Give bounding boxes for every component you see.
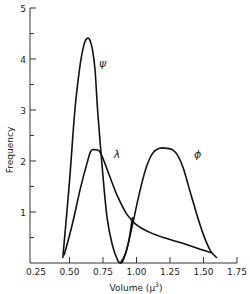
- y-tick-label: 2: [20, 157, 26, 167]
- curve-label-psi: ψ: [99, 57, 107, 70]
- x-tick-label: 1.75: [227, 267, 247, 277]
- x-tick-label: 1.00: [126, 267, 146, 277]
- axes: 123450.250.500.751.001.251.501.75: [20, 4, 247, 278]
- frequency-volume-chart: 123450.250.500.751.001.251.501.75 ψλϕ Fr…: [0, 0, 250, 294]
- y-axis-title: Frequency: [5, 126, 15, 173]
- curve-label-lambda: λ: [113, 148, 121, 161]
- y-tick-label: 1: [20, 208, 26, 218]
- y-tick-label: 5: [20, 4, 26, 14]
- curve-label-phi: ϕ: [194, 148, 201, 161]
- x-axis-title: Volume (μ3): [110, 281, 163, 293]
- x-tick-label: 1.50: [193, 267, 213, 277]
- x-tick-label: 0.25: [26, 267, 46, 277]
- y-tick-label: 4: [20, 55, 26, 65]
- x-tick-label: 0.75: [93, 267, 113, 277]
- curve-phi: [120, 148, 216, 263]
- y-tick-label: 3: [20, 106, 26, 116]
- curve-labels: ψλϕ: [99, 57, 201, 162]
- x-tick-label: 1.25: [160, 267, 180, 277]
- x-tick-label: 0.50: [59, 267, 79, 277]
